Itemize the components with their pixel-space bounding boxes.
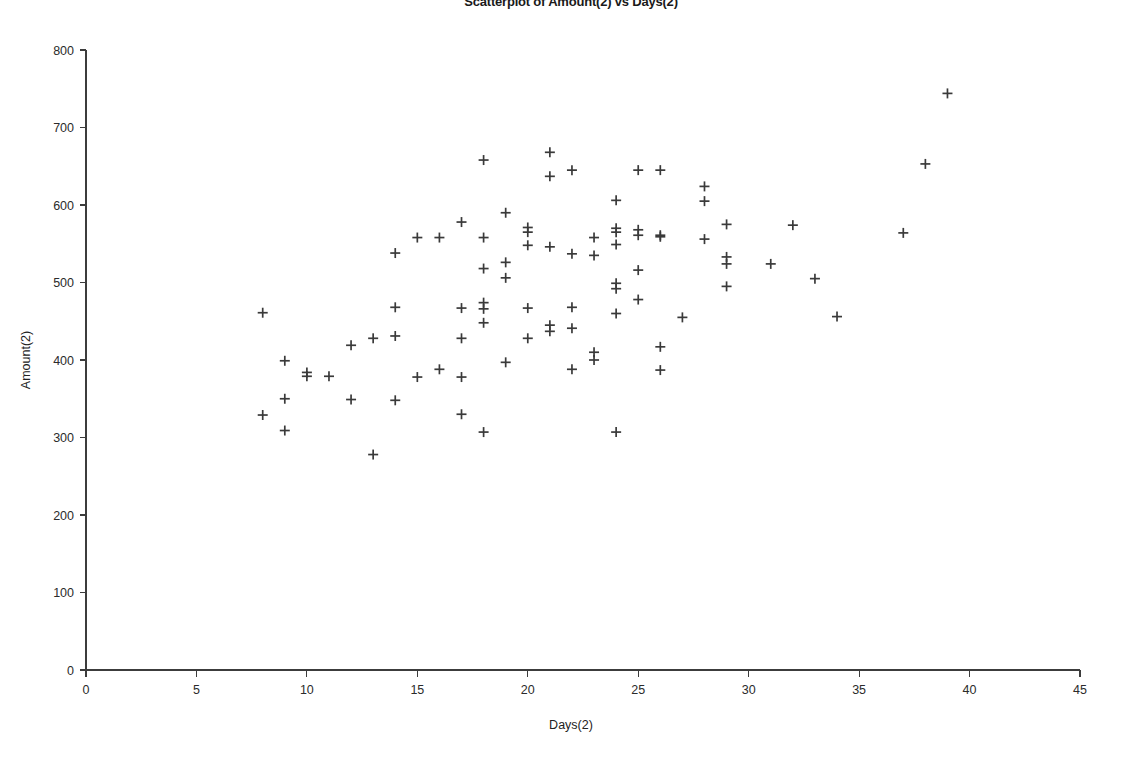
data-point bbox=[567, 249, 577, 259]
data-point bbox=[898, 228, 908, 238]
data-point bbox=[699, 181, 709, 191]
data-point bbox=[633, 265, 643, 275]
data-point bbox=[567, 323, 577, 333]
data-point bbox=[457, 333, 467, 343]
data-point bbox=[501, 273, 511, 283]
data-point bbox=[545, 147, 555, 157]
scatterplot-figure: Scatterplot of Amount(2) vs Days(2) 0100… bbox=[0, 0, 1142, 758]
data-point bbox=[633, 165, 643, 175]
x-tick-label: 5 bbox=[193, 683, 200, 697]
data-point bbox=[655, 365, 665, 375]
x-tick-label: 10 bbox=[300, 683, 314, 697]
data-point bbox=[677, 312, 687, 322]
data-point bbox=[545, 242, 555, 252]
data-point bbox=[942, 88, 952, 98]
x-axis: 051015202530354045 bbox=[83, 670, 1087, 697]
data-point bbox=[722, 259, 732, 269]
data-point bbox=[832, 312, 842, 322]
data-point bbox=[434, 364, 444, 374]
x-tick-label: 25 bbox=[631, 683, 645, 697]
data-point bbox=[390, 248, 400, 258]
data-point bbox=[390, 331, 400, 341]
x-tick-label: 0 bbox=[83, 683, 90, 697]
y-tick-label: 700 bbox=[53, 121, 74, 135]
data-point bbox=[457, 372, 467, 382]
plot-area: 0100200300400500600700800 05101520253035… bbox=[0, 0, 1142, 758]
data-point bbox=[611, 284, 621, 294]
data-point bbox=[479, 427, 489, 437]
data-point bbox=[545, 171, 555, 181]
data-point bbox=[655, 232, 665, 242]
data-point bbox=[611, 240, 621, 250]
data-point bbox=[280, 394, 290, 404]
data-point bbox=[722, 219, 732, 229]
data-point bbox=[412, 233, 422, 243]
data-point bbox=[501, 357, 511, 367]
data-point bbox=[920, 159, 930, 169]
data-point bbox=[523, 240, 533, 250]
data-point bbox=[479, 264, 489, 274]
data-point bbox=[655, 342, 665, 352]
data-point bbox=[567, 165, 577, 175]
data-point bbox=[611, 309, 621, 319]
data-point bbox=[501, 208, 511, 218]
data-point bbox=[368, 450, 378, 460]
data-point bbox=[346, 395, 356, 405]
data-point bbox=[434, 233, 444, 243]
data-point bbox=[655, 165, 665, 175]
data-point bbox=[589, 250, 599, 260]
data-point bbox=[280, 426, 290, 436]
data-point bbox=[611, 195, 621, 205]
data-point bbox=[258, 308, 268, 318]
x-tick-label: 40 bbox=[963, 683, 977, 697]
y-tick-label: 800 bbox=[53, 44, 74, 58]
data-point bbox=[346, 340, 356, 350]
x-tick-label: 15 bbox=[410, 683, 424, 697]
data-point bbox=[589, 355, 599, 365]
data-point bbox=[280, 356, 290, 366]
y-tick-label: 600 bbox=[53, 199, 74, 213]
y-tick-label: 0 bbox=[67, 664, 74, 678]
data-point bbox=[501, 257, 511, 267]
data-point bbox=[788, 220, 798, 230]
data-point bbox=[457, 217, 467, 227]
data-point bbox=[567, 302, 577, 312]
x-tick-label: 35 bbox=[852, 683, 866, 697]
data-point bbox=[589, 233, 599, 243]
y-tick-label: 200 bbox=[53, 509, 74, 523]
data-point bbox=[722, 281, 732, 291]
data-point bbox=[611, 427, 621, 437]
data-point bbox=[699, 196, 709, 206]
y-tick-label: 400 bbox=[53, 354, 74, 368]
data-point bbox=[545, 320, 555, 330]
y-tick-label: 300 bbox=[53, 431, 74, 445]
data-point bbox=[523, 227, 533, 237]
data-point bbox=[633, 230, 643, 240]
data-point bbox=[523, 303, 533, 313]
x-axis-title: Days(2) bbox=[549, 718, 593, 732]
y-axis-title: Amount(2) bbox=[19, 331, 33, 389]
x-tick-label: 30 bbox=[742, 683, 756, 697]
data-point bbox=[633, 295, 643, 305]
x-tick-label: 45 bbox=[1073, 683, 1087, 697]
data-point bbox=[368, 333, 378, 343]
data-point bbox=[258, 410, 268, 420]
data-point bbox=[412, 372, 422, 382]
x-tick-label: 20 bbox=[521, 683, 535, 697]
data-point bbox=[699, 234, 709, 244]
y-axis: 0100200300400500600700800 bbox=[53, 44, 86, 678]
data-point bbox=[324, 371, 334, 381]
data-point bbox=[479, 155, 489, 165]
data-point bbox=[457, 303, 467, 313]
data-point bbox=[567, 364, 577, 374]
data-point bbox=[479, 233, 489, 243]
data-point bbox=[479, 304, 489, 314]
data-point bbox=[810, 274, 820, 284]
y-tick-label: 100 bbox=[53, 586, 74, 600]
data-points bbox=[258, 88, 953, 459]
data-point bbox=[523, 333, 533, 343]
y-tick-label: 500 bbox=[53, 276, 74, 290]
data-point bbox=[390, 395, 400, 405]
data-point bbox=[479, 318, 489, 328]
data-point bbox=[390, 302, 400, 312]
